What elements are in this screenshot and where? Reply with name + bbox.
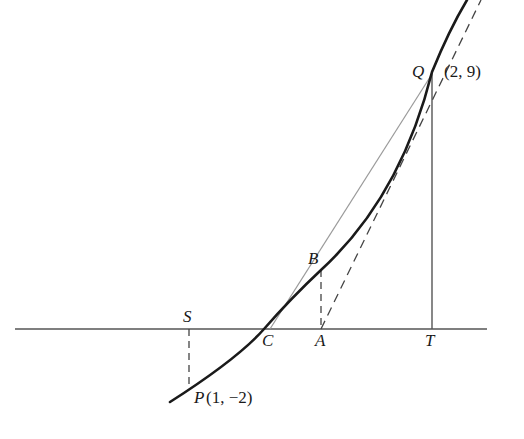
diagram: Q (2, 9) B S C A T P (1, −2) xyxy=(0,0,524,439)
label-A: A xyxy=(314,331,326,350)
label-B: B xyxy=(308,249,319,268)
chord-CQ xyxy=(270,74,432,329)
label-Q-coords: (2, 9) xyxy=(444,62,481,81)
label-T: T xyxy=(425,331,436,350)
label-Q: Q xyxy=(412,62,424,81)
label-C: C xyxy=(262,331,274,350)
label-P: P xyxy=(193,388,204,407)
label-P-coords: (1, −2) xyxy=(206,388,252,407)
dashed-AQ xyxy=(321,0,481,329)
label-S: S xyxy=(183,307,192,326)
